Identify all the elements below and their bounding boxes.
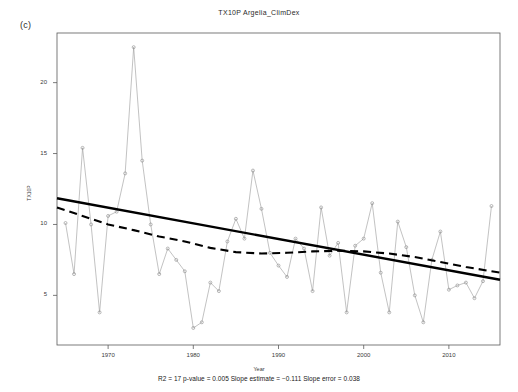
linear-trend-line	[57, 198, 500, 280]
plot-canvas	[0, 0, 518, 392]
y-axis-tick-label: 15	[21, 150, 47, 156]
x-axis-tick-label: 2010	[434, 352, 464, 358]
x-axis-tick-label: 1980	[178, 352, 208, 358]
figure-container: (c) TX10P Argelia_ClimDex TX10P Year R2 …	[0, 0, 518, 392]
y-axis-tick-label: 20	[21, 79, 47, 85]
x-axis-title: Year	[0, 366, 518, 372]
plot-frame	[57, 33, 500, 345]
x-axis-tick-label: 2000	[349, 352, 379, 358]
figure-caption: R2 = 17 p-value = 0.005 Slope estimate =…	[0, 375, 518, 382]
x-axis-tick-label: 1970	[93, 352, 123, 358]
x-axis-tick-label: 1990	[264, 352, 294, 358]
y-axis-title: TX10P	[26, 163, 32, 223]
y-axis-tick-label: 5	[21, 291, 47, 297]
y-axis-tick-label: 10	[21, 220, 47, 226]
data-series-line	[66, 47, 492, 328]
